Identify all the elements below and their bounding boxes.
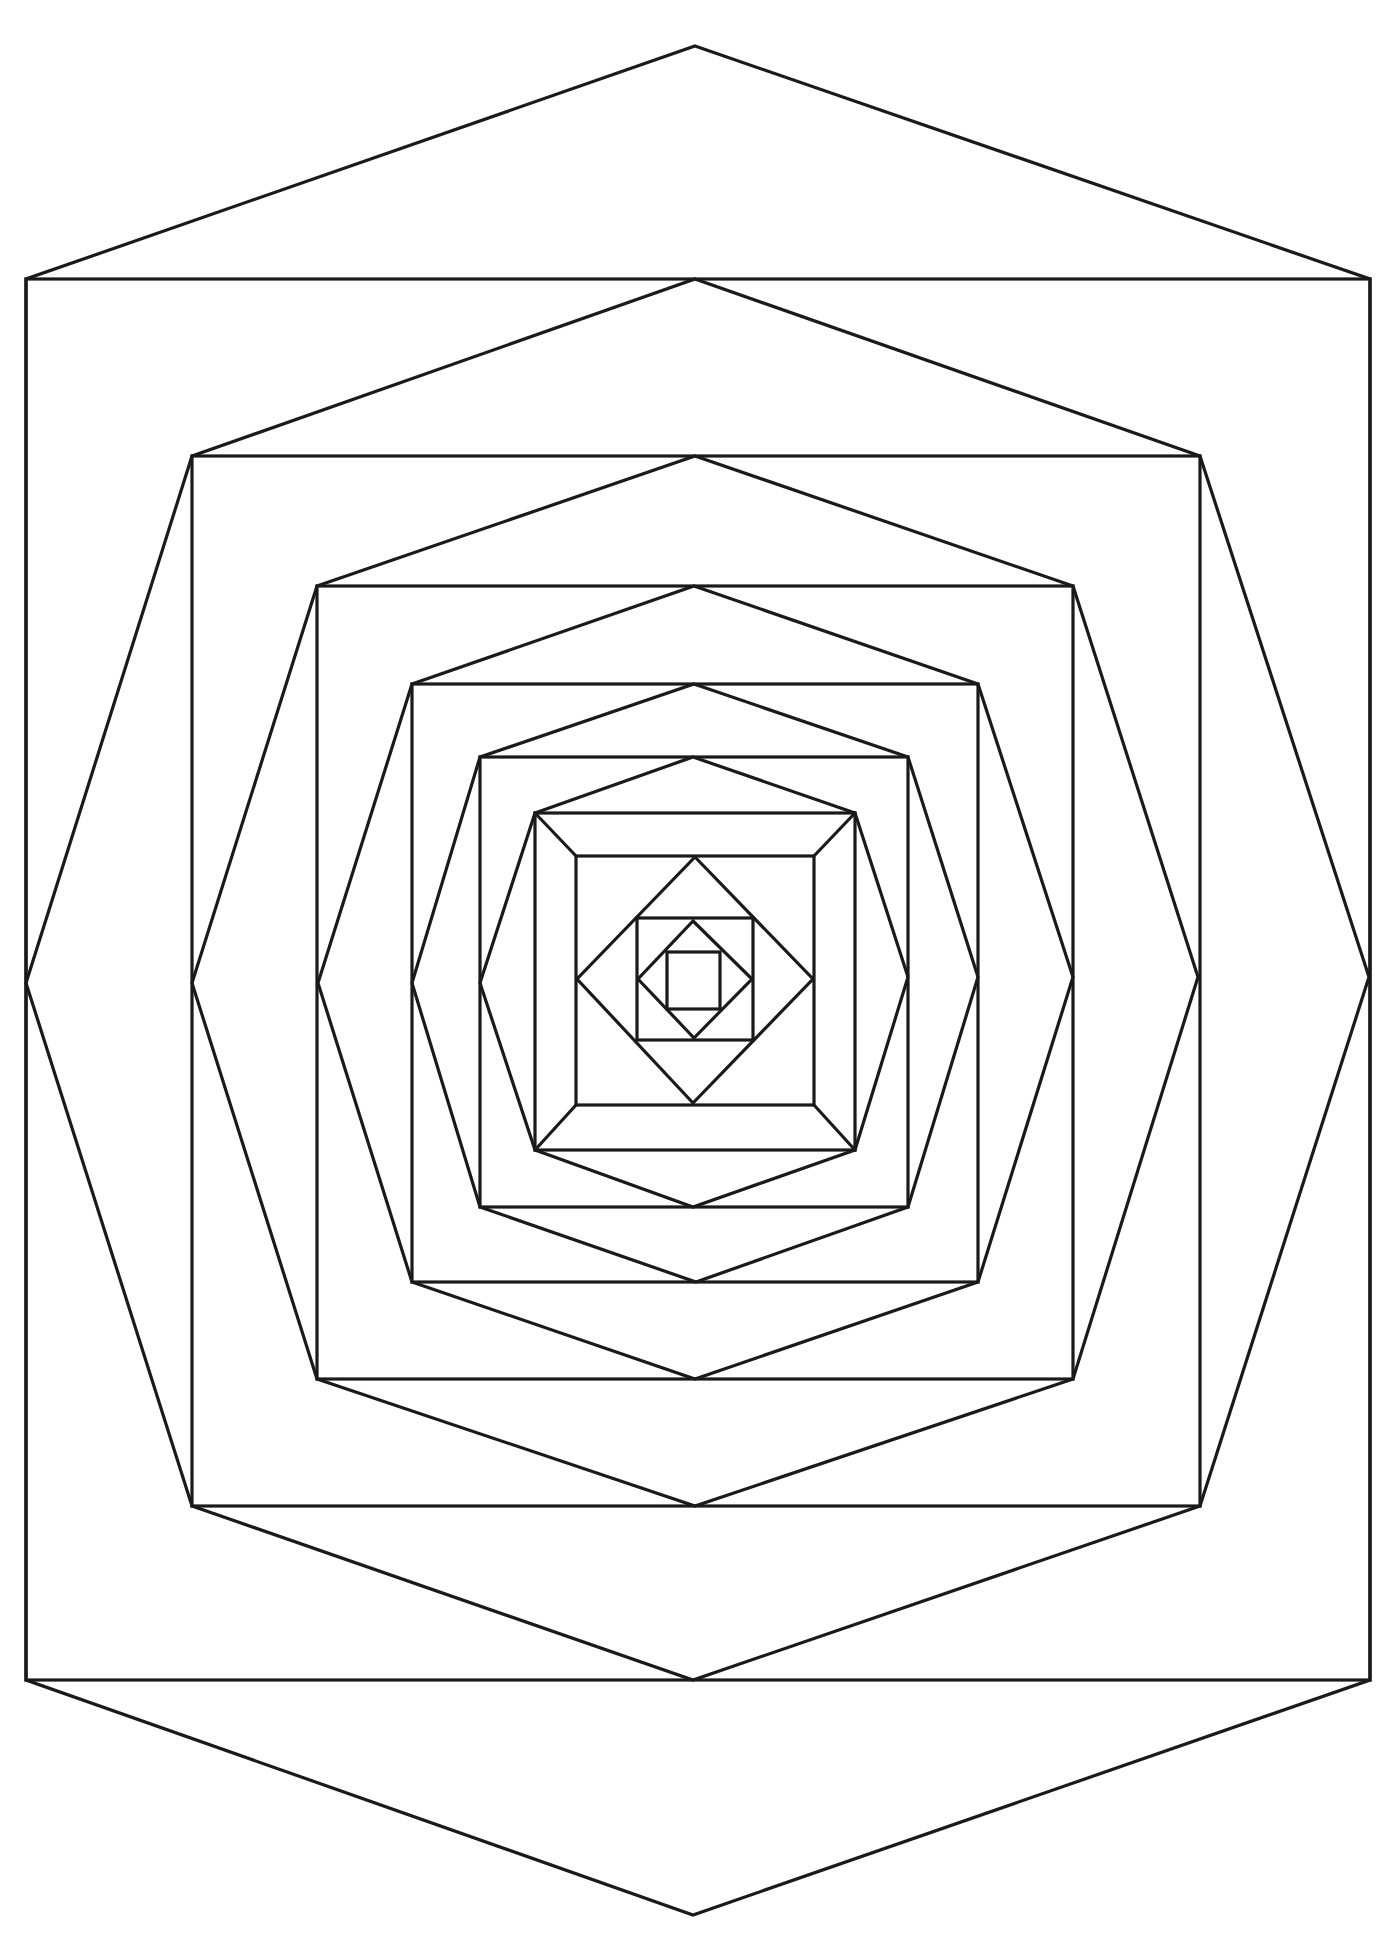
background	[0, 0, 1389, 1943]
nested-geometric-figure	[0, 0, 1389, 1943]
